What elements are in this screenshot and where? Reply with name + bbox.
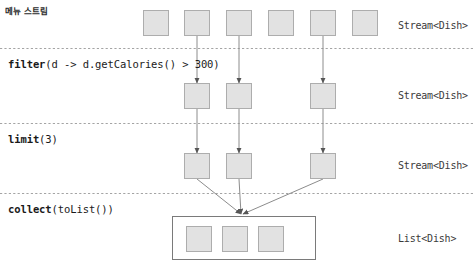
operation-args-filter: (d -> d.getCalories() > 300) <box>45 58 219 70</box>
dish-box-filtered-0 <box>184 83 210 109</box>
dish-box-source-4 <box>310 10 336 36</box>
operation-name-filter: filter <box>8 58 45 70</box>
operation-name-limit: limit <box>8 133 39 145</box>
dish-box-filtered-1 <box>226 83 252 109</box>
type-label-filtered: Stream<Dish> <box>398 90 468 101</box>
operation-label-filter: filter(d -> d.getCalories() > 300) <box>8 58 220 70</box>
type-label-source: Stream<Dish> <box>398 20 468 31</box>
dish-box-source-1 <box>184 10 210 36</box>
connector-limited-to-collected-0 <box>197 179 241 214</box>
dish-box-limited-0 <box>184 153 210 179</box>
stream-pipeline-diagram: 메뉴 스트림 filter(d -> d.getCalories() > 300… <box>0 0 475 261</box>
dish-box-limited-1 <box>226 153 252 179</box>
connector-limited-to-collected-1 <box>239 179 241 214</box>
operation-label-collect: collect(toList()) <box>8 203 114 215</box>
dish-box-source-2 <box>226 10 252 36</box>
type-label-collected: List<Dish> <box>398 233 456 244</box>
operation-name-collect: collect <box>8 203 52 215</box>
dish-box-collected-2 <box>258 226 284 252</box>
dish-box-source-0 <box>143 10 169 36</box>
dish-box-source-5 <box>352 10 378 36</box>
dish-box-filtered-2 <box>310 83 336 109</box>
dish-box-collected-1 <box>222 226 248 252</box>
connector-limited-to-collected-2 <box>243 179 323 214</box>
type-label-limited: Stream<Dish> <box>398 160 468 171</box>
operation-label-limit: limit(3) <box>8 133 58 145</box>
operation-args-collect: (toList()) <box>52 203 114 215</box>
dish-box-collected-0 <box>186 226 212 252</box>
operation-args-limit: (3) <box>39 133 58 145</box>
dish-box-limited-2 <box>310 153 336 179</box>
dish-box-source-3 <box>268 10 294 36</box>
